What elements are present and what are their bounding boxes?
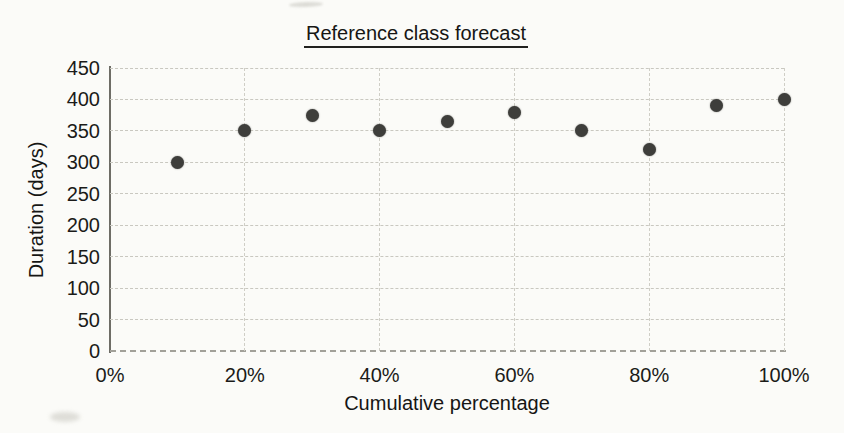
x-tick-label: 0% — [96, 364, 125, 386]
y-tick-label: 250 — [0, 183, 100, 205]
x-tick-label: 60% — [494, 364, 534, 386]
x-tick-label: 40% — [360, 364, 400, 386]
x-tick-label: 100% — [758, 364, 809, 386]
scan-smudge — [50, 412, 80, 422]
x-tick-label: 20% — [225, 364, 265, 386]
data-point — [778, 93, 791, 106]
y-tick-label: 450 — [0, 57, 100, 79]
y-tick-label: 50 — [0, 309, 100, 331]
h-gridline — [110, 193, 784, 194]
y-tick-label: 150 — [0, 246, 100, 268]
v-gridline — [379, 68, 380, 351]
h-gridline — [110, 256, 784, 257]
plot-area — [110, 68, 784, 351]
y-tick-label: 0 — [0, 340, 100, 362]
h-gridline — [110, 68, 784, 69]
h-gridline — [110, 162, 784, 163]
x-tick-label: 80% — [629, 364, 669, 386]
y-tick-label: 100 — [0, 277, 100, 299]
data-point — [373, 124, 386, 137]
v-gridline — [784, 68, 785, 351]
data-point — [238, 124, 251, 137]
v-gridline — [244, 68, 245, 351]
data-point — [643, 143, 656, 156]
y-tick-label: 350 — [0, 120, 100, 142]
scatter-chart-figure: Reference class forecast Duration (days)… — [0, 0, 844, 433]
y-tick-label: 400 — [0, 88, 100, 110]
data-point — [441, 115, 454, 128]
chart-title: Reference class forecast — [304, 21, 528, 48]
data-point — [171, 156, 184, 169]
h-gridline — [110, 130, 784, 131]
h-gridline — [110, 288, 784, 289]
h-gridline — [110, 99, 784, 100]
scan-smudge — [289, 1, 323, 7]
h-gridline — [110, 225, 784, 226]
v-gridline — [649, 68, 650, 351]
chart-title-wrap: Reference class forecast — [0, 21, 832, 48]
y-tick-label: 200 — [0, 214, 100, 236]
h-gridline — [110, 319, 784, 320]
data-point — [710, 99, 723, 112]
y-tick-label: 300 — [0, 151, 100, 173]
x-axis-title: Cumulative percentage — [344, 392, 550, 414]
data-point — [508, 106, 521, 119]
data-point — [575, 124, 588, 137]
data-point — [306, 109, 319, 122]
